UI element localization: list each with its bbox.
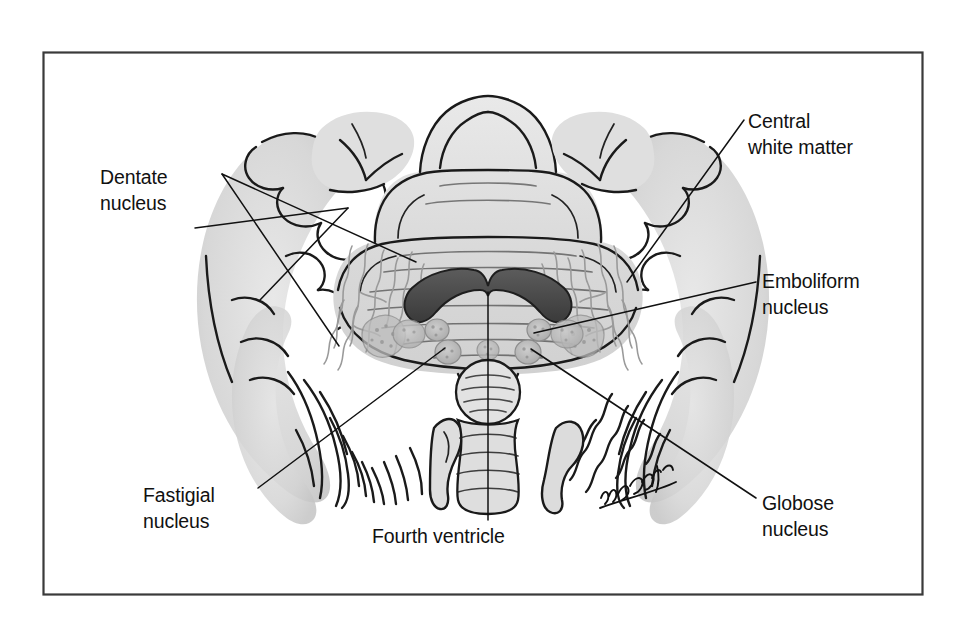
cerebellum-illustration [197,96,769,524]
label-emboliform-nucleus-line2: nucleus [762,296,829,318]
label-emboliform-nucleus-line1: Emboliform [762,270,860,292]
label-emboliform-nucleus[interactable]: Emboliform nucleus [762,270,860,318]
label-central-white-matter-line1: Central [748,110,810,132]
label-globose-nucleus[interactable]: Globose nucleus [762,492,834,540]
diagram-canvas: Dentate nucleus Central white matter Emb… [0,0,963,629]
cerebellum-diagram-figure: Dentate nucleus Central white matter Emb… [0,0,963,629]
cerebellar-hemisphere-right [617,134,770,524]
label-central-white-matter[interactable]: Central white matter [747,110,854,158]
label-fastigial-nucleus-line1: Fastigial [143,484,215,506]
label-fastigial-nucleus-line2: nucleus [143,510,210,532]
label-fastigial-nucleus[interactable]: Fastigial nucleus [143,484,215,532]
label-globose-nucleus-line2: nucleus [762,518,829,540]
cerebellar-hemisphere-left [197,134,350,524]
accessory-nucleus-right [551,320,583,348]
label-dentate-nucleus-line1: Dentate [100,166,168,188]
label-fourth-ventricle-line1: Fourth ventricle [372,525,505,547]
accessory-nucleus-left [393,320,425,348]
label-fourth-ventricle[interactable]: Fourth ventricle [372,525,505,547]
label-central-white-matter-line2: white matter [747,136,854,158]
globose-nucleus-right [515,340,541,364]
label-dentate-nucleus-line2: nucleus [100,192,167,214]
label-globose-nucleus-line1: Globose [762,492,834,514]
label-dentate-nucleus[interactable]: Dentate nucleus [100,166,168,214]
emboliform-nucleus-left [425,319,449,341]
